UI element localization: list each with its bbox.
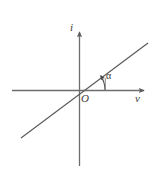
angle-alpha-label: α	[106, 71, 111, 81]
v-axis-label: v	[135, 93, 140, 104]
graph-canvas	[0, 0, 160, 176]
origin-label: O	[81, 93, 89, 104]
vi-characteristic-figure: i v O α	[0, 0, 160, 176]
i-axis-label: i	[70, 22, 73, 33]
